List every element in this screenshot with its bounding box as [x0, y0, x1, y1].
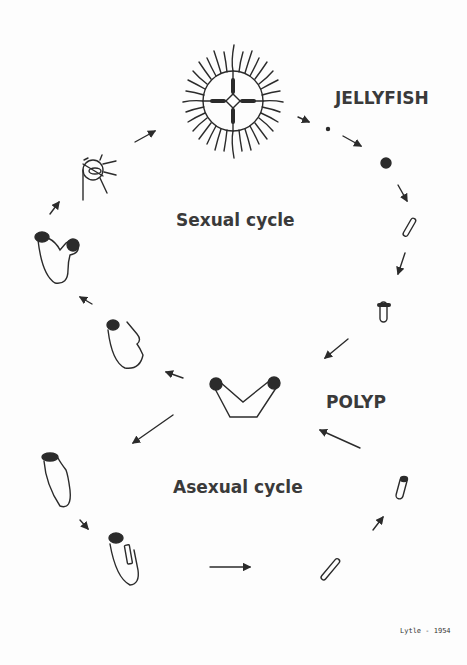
signature: Lytle - 1954	[400, 627, 451, 635]
ephyra-icon	[83, 155, 116, 200]
life-cycle-diagram: JELLYFISH Sexual cycle POLYP Asexual cyc…	[0, 0, 467, 665]
asexual-polyp-icon	[44, 458, 70, 507]
asexual-cycle-label: Asexual cycle	[173, 477, 303, 497]
planula-icon	[402, 217, 416, 237]
jellyfish-icon	[183, 45, 283, 158]
polyp-icon	[210, 377, 280, 417]
polyp-label: POLYP	[326, 392, 386, 412]
sexual-cycle-label: Sexual cycle	[176, 210, 295, 230]
jellyfish-label: JELLYFISH	[335, 88, 429, 108]
bud-icon	[320, 558, 341, 581]
egg-icon	[327, 128, 330, 131]
budding-polyp-asexual-icon	[110, 544, 138, 585]
fertilized-egg-icon	[381, 158, 391, 168]
